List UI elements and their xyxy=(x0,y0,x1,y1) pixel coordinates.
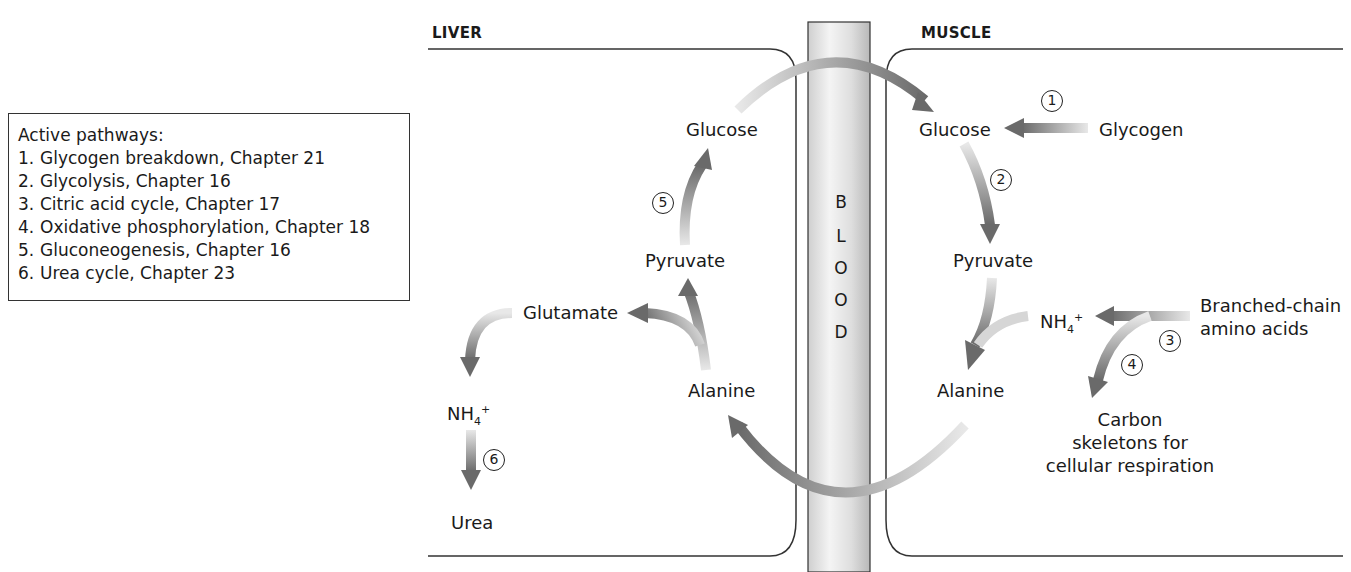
muscle-region-label: MUSCLE xyxy=(921,24,992,42)
carbon-skeletons-line1: Carbon xyxy=(1030,410,1230,430)
liver-pyruvate-label: Pyruvate xyxy=(645,251,725,271)
carbon-skeletons-line2: skeletons for xyxy=(1030,433,1230,453)
step-marker-2: 2 xyxy=(990,169,1012,191)
muscle-glucose-label: Glucose xyxy=(919,120,991,140)
liver-glutamate-label: Glutamate xyxy=(523,303,618,323)
blood-label-letter: B xyxy=(834,192,848,212)
liver-ammonium-label: NH4+ xyxy=(447,400,490,432)
step-marker-6: 6 xyxy=(483,449,505,471)
diagram-canvas xyxy=(0,0,1351,572)
blood-label-letter: D xyxy=(834,322,848,342)
muscle-alanine-label: Alanine xyxy=(937,381,1004,401)
bcaa-label-line1: Branched-chain xyxy=(1200,296,1341,316)
bcaa-label-line2: amino acids xyxy=(1200,319,1308,339)
muscle-ammonium-label: NH4+ xyxy=(1040,308,1083,340)
step-marker-3: 3 xyxy=(1159,330,1181,352)
liver-urea-label: Urea xyxy=(451,513,493,533)
muscle-glycogen-label: Glycogen xyxy=(1099,120,1183,140)
blood-label-letter: L xyxy=(834,226,848,246)
muscle-pyruvate-label: Pyruvate xyxy=(953,251,1033,271)
liver-glucose-label: Glucose xyxy=(686,120,758,140)
step-marker-4: 4 xyxy=(1121,354,1143,376)
liver-alanine-label: Alanine xyxy=(688,381,755,401)
step-marker-5: 5 xyxy=(652,192,674,214)
blood-label-letter: O xyxy=(834,258,848,278)
liver-region-label: LIVER xyxy=(432,24,482,42)
blood-label-letter: O xyxy=(834,290,848,310)
carbon-skeletons-line3: cellular respiration xyxy=(1030,456,1230,476)
step-marker-1: 1 xyxy=(1041,90,1063,112)
